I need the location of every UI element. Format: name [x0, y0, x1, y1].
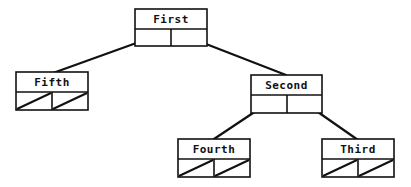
node-third: Third	[322, 139, 394, 177]
node-fourth: Fourth	[178, 139, 250, 177]
node-label: Fourth	[193, 143, 236, 156]
node-label: Fifth	[34, 76, 70, 89]
nodes: FirstFifthSecondFourthThird	[16, 9, 394, 177]
node-fifth: Fifth	[16, 72, 88, 110]
node-label: Second	[265, 79, 308, 92]
node-first: First	[135, 9, 207, 46]
node-label: First	[153, 13, 189, 26]
node-label: Third	[340, 143, 376, 156]
node-second: Second	[251, 75, 322, 113]
tree-diagram: FirstFifthSecondFourthThird	[0, 0, 411, 187]
